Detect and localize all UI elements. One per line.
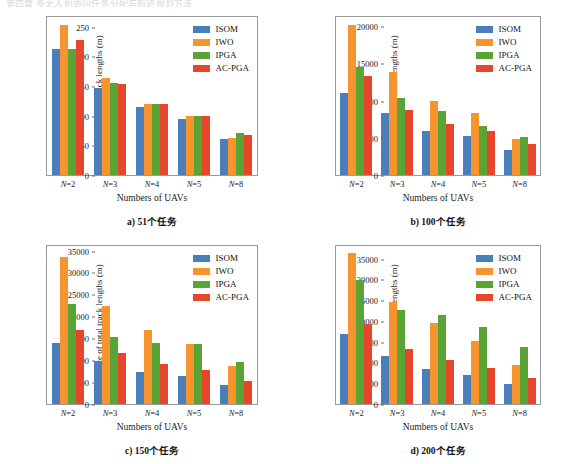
bar-iwo-N3 [102,306,110,404]
x-tick-label: N=8 [229,405,244,421]
legend-swatch-icon [476,26,493,33]
bar-isom-N3 [381,113,389,175]
plot-area-c: 05000100001500020000250003000035000 Aver… [46,245,258,405]
legend-item-ipga: IPGA [476,279,532,289]
bar-isom-N8 [220,385,228,404]
x-tick-label: N=3 [390,176,405,192]
legend-item-ac-pga: AC-PGA [193,292,249,302]
panel-caption-a: a) 51个任务 [46,214,258,228]
bar-group [94,17,126,175]
bar-iwo-N3 [389,302,397,404]
bar-isom-N4 [136,107,144,175]
bar-ac-pga-N8 [528,378,536,404]
bar-iwo-N8 [512,365,520,404]
bar-ipga-N4 [152,343,160,404]
legend-a: ISOMIWOIPGAAC-PGA [190,22,252,75]
legend-swatch-icon [193,39,210,46]
plot-area-d: 05000100001500020000250003000035000 Aver… [335,245,541,405]
legend-label: ISOM [498,253,521,263]
bar-ac-pga-N3 [405,110,413,175]
bar-isom-N3 [94,88,102,175]
legend-label: ISOM [215,253,238,263]
bar-iwo-N8 [512,139,520,175]
x-axis-d: N=2N=3N=4N=5N=8 [336,405,540,421]
bar-iwo-N2 [60,257,68,404]
bar-ipga-N3 [110,337,118,404]
bar-ipga-N3 [397,98,405,175]
bar-iwo-N5 [471,113,479,175]
bar-ipga-N2 [356,67,364,175]
bar-ac-pga-N5 [487,131,495,175]
legend-item-iwo: IWO [476,266,532,276]
plot-area-a: 050100150200250 Average of total track l… [46,16,258,176]
bar-isom-N8 [504,384,512,404]
x-tick-label: N=2 [349,176,364,192]
panel-caption-d: d) 200个任务 [335,443,541,457]
bar-group [381,17,413,175]
x-axis-label-b: Numbers of UAVs [335,193,541,203]
bar-group [52,17,84,175]
x-tick-label: N=8 [512,405,527,421]
legend-label: ISOM [215,24,238,34]
bar-iwo-N4 [144,330,152,404]
legend-item-ipga: IPGA [193,50,249,60]
bar-iwo-N3 [389,72,397,175]
bar-iwo-N2 [60,25,68,175]
legend-label: AC-PGA [498,292,532,302]
legend-label: IPGA [498,279,519,289]
chart-panel-c: 05000100001500020000250003000035000 Aver… [0,235,283,464]
bar-group [94,246,126,404]
bar-ac-pga-N5 [202,116,210,175]
bar-iwo-N4 [430,323,438,404]
bar-ac-pga-N3 [405,349,413,404]
bar-ac-pga-N5 [202,370,210,404]
bar-group [136,17,168,175]
chart-panel-a: 050100150200250 Average of total track l… [0,6,283,235]
bar-isom-N3 [94,361,102,404]
legend-b: ISOMIWOIPGAAC-PGA [473,22,535,75]
legend-swatch-icon [193,65,210,72]
legend-label: IWO [498,266,516,276]
x-tick-label: N=8 [229,176,244,192]
legend-swatch-icon [193,26,210,33]
bar-iwo-N4 [144,104,152,175]
x-axis-b: N=2N=3N=4N=5N=8 [336,176,540,192]
bar-iwo-N8 [228,366,236,404]
bar-ac-pga-N4 [446,360,454,404]
bar-ac-pga-N2 [364,324,372,404]
legend-item-ipga: IPGA [193,279,249,289]
chart-panel-d: 05000100001500020000250003000035000 Aver… [283,235,566,464]
legend-item-iwo: IWO [193,37,249,47]
bar-ipga-N5 [479,126,487,175]
legend-swatch-icon [193,255,210,262]
bar-ac-pga-N8 [244,135,252,175]
legend-item-ac-pga: AC-PGA [476,292,532,302]
x-axis-label-a: Numbers of UAVs [46,193,258,203]
bar-ipga-N8 [520,347,528,404]
legend-label: IWO [215,266,233,276]
bar-iwo-N5 [186,344,194,404]
bar-isom-N2 [340,93,348,175]
bar-ipga-N8 [236,133,244,175]
x-tick-label: N=3 [103,176,118,192]
legend-swatch-icon [476,281,493,288]
x-tick-label: N=4 [431,405,446,421]
legend-label: AC-PGA [215,63,249,73]
bar-group [52,246,84,404]
bar-ipga-N3 [397,310,405,404]
bar-ac-pga-N3 [118,353,126,404]
legend-item-ac-pga: AC-PGA [476,63,532,73]
legend-swatch-icon [476,39,493,46]
bar-ac-pga-N8 [244,381,252,404]
legend-item-isom: ISOM [476,24,532,34]
bar-group [340,17,372,175]
bar-ipga-N4 [438,111,446,175]
x-tick-label: N=3 [103,405,118,421]
bar-isom-N5 [178,119,186,175]
bar-ipga-N5 [194,344,202,404]
bar-ac-pga-N2 [76,40,84,175]
bar-ac-pga-N4 [160,364,168,404]
bar-isom-N3 [381,356,389,404]
legend-swatch-icon [193,281,210,288]
legend-swatch-icon [193,268,210,275]
